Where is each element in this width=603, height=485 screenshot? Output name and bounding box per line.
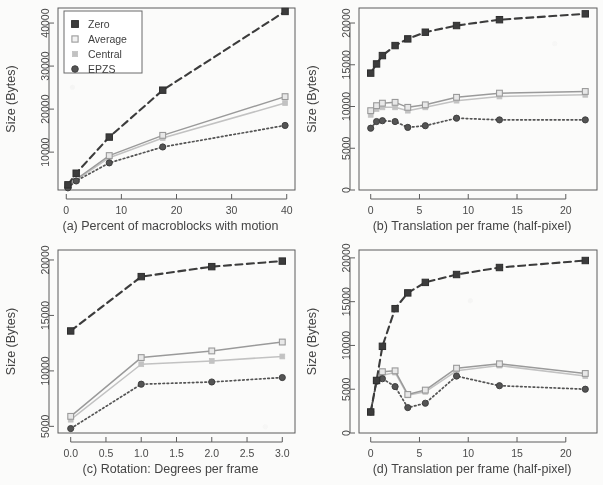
data-point-marker: [106, 134, 112, 140]
series-epzs: [368, 373, 589, 415]
x-tick-label: 3.0: [275, 447, 290, 459]
y-axis-d: 05000100001500020000: [340, 243, 355, 436]
y-axis-title: Size (Bytes): [305, 65, 319, 132]
series-central: [68, 354, 284, 422]
x-tick-label: 5: [417, 204, 423, 216]
x-tick-label: 10: [116, 204, 128, 216]
data-point-marker: [67, 328, 73, 334]
data-point-marker: [405, 290, 411, 296]
data-point-marker: [496, 264, 502, 270]
data-point-marker: [422, 387, 428, 393]
y-tick-label: 15000: [340, 287, 352, 316]
data-point-marker: [379, 52, 385, 58]
data-point-marker: [279, 374, 285, 380]
data-point-marker: [373, 61, 379, 67]
y-tick-label: 30000: [39, 51, 51, 80]
series-average: [65, 94, 288, 190]
data-point-marker: [139, 362, 144, 367]
data-point-marker: [209, 379, 215, 385]
data-point-marker: [454, 365, 460, 371]
data-point-marker: [422, 102, 428, 108]
x-tick-label: 2.0: [204, 447, 219, 459]
y-axis-b: 05000100001500020000: [340, 8, 355, 193]
data-point-marker: [280, 354, 285, 359]
y-axis-title: Size (Bytes): [4, 308, 18, 375]
data-point-marker: [380, 369, 386, 375]
data-point-marker: [392, 118, 398, 124]
x-tick-label: 1.5: [169, 447, 184, 459]
legend-marker-epzs: [72, 66, 79, 73]
data-point-marker: [392, 368, 398, 374]
series-epzs: [68, 374, 286, 431]
y-tick-label: 10000: [39, 137, 51, 166]
series-zero: [368, 11, 589, 77]
chart-panel-b: 0500010000150002000005101520Size (Bytes)…: [301, 0, 603, 242]
data-point-marker: [405, 104, 411, 110]
data-point-marker: [380, 100, 386, 106]
data-point-marker: [368, 125, 374, 131]
series-zero: [67, 258, 285, 334]
panel-d: 0500010000150002000005101520Size (Bytes)…: [301, 242, 603, 485]
x-tick-label: 10: [462, 204, 474, 216]
data-point-marker: [282, 122, 288, 128]
x-tick-label: 15: [511, 204, 523, 216]
chart-panel-c: 50001000015000200000.00.51.01.52.02.53.0…: [0, 242, 301, 485]
legend: ZeroAverageCentralEPZS: [64, 11, 142, 75]
panel-caption-b: (b) Translation per frame (half-pixel): [373, 219, 572, 233]
x-tick-label: 20: [560, 447, 572, 459]
data-point-marker: [582, 89, 588, 95]
data-point-marker: [138, 273, 144, 279]
x-tick-label: 30: [226, 204, 238, 216]
series-line-zero: [371, 261, 586, 412]
legend-marker-average: [72, 36, 78, 42]
legend-label-average: Average: [88, 33, 127, 45]
panel-caption-c: (c) Rotation: Degrees per frame: [83, 462, 259, 476]
x-tick-label: 20: [171, 204, 183, 216]
data-point-marker: [368, 108, 374, 114]
y-axis-title: Size (Bytes): [305, 308, 319, 375]
x-tick-label: 0: [368, 447, 374, 459]
y-axis-title: Size (Bytes): [4, 65, 18, 132]
y-tick-label: 5000: [39, 415, 51, 439]
data-point-marker: [497, 90, 503, 96]
series-line-central: [371, 366, 586, 412]
data-point-marker: [138, 355, 144, 361]
data-point-marker: [106, 153, 112, 159]
data-point-marker: [496, 117, 502, 123]
x-tick-label: 0: [63, 204, 69, 216]
data-point-marker: [209, 359, 214, 364]
data-point-marker: [422, 279, 428, 285]
data-point-marker: [209, 263, 215, 269]
series-line-central: [71, 356, 283, 419]
panel-b: 0500010000150002000005101520Size (Bytes)…: [301, 0, 603, 242]
plot-frame: [58, 250, 295, 433]
data-point-marker: [65, 182, 71, 188]
data-point-marker: [496, 16, 502, 22]
data-point-marker: [392, 99, 398, 105]
data-point-marker: [106, 160, 112, 166]
y-axis-c: 5000100001500020000: [39, 245, 54, 438]
y-tick-label: 5000: [340, 377, 352, 401]
y-tick-label: 10000: [340, 92, 352, 121]
x-axis-d: 05101520: [368, 437, 572, 459]
data-point-marker: [368, 409, 374, 415]
data-point-marker: [68, 413, 74, 419]
legend-marker-central: [72, 51, 77, 56]
y-tick-label: 0: [340, 187, 352, 193]
data-point-marker: [282, 94, 288, 100]
x-tick-label: 0.0: [63, 447, 78, 459]
data-point-marker: [209, 348, 215, 354]
data-point-marker: [453, 115, 459, 121]
data-point-marker: [379, 118, 385, 124]
legend-label-central: Central: [88, 48, 122, 60]
series-epzs: [65, 122, 288, 191]
series-line-average: [371, 91, 586, 110]
legend-label-epzs: EPZS: [88, 63, 115, 75]
x-tick-label: 0: [368, 204, 374, 216]
series-line-epzs: [371, 118, 586, 128]
series-average: [368, 89, 588, 114]
panel-a: 10000200003000040000010203040Size (Bytes…: [0, 0, 301, 242]
data-point-marker: [405, 36, 411, 42]
data-point-marker: [422, 123, 428, 129]
data-point-marker: [422, 29, 428, 35]
